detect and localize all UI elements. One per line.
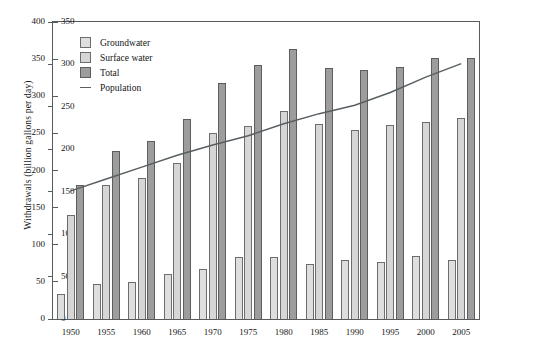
legend-item-total: Total xyxy=(80,65,220,80)
tick-label: 400 xyxy=(32,17,46,26)
x-axis-tick-label: 2005 xyxy=(439,327,483,337)
tick-label: 150 xyxy=(32,203,46,212)
chart-figure: Withdrawals (billion gallons per day) Po… xyxy=(0,0,537,352)
y-axis-left-title: Withdrawals (billion gallons per day) xyxy=(23,45,33,265)
legend-swatch-groundwater-icon xyxy=(80,37,91,48)
legend-label-population: Population xyxy=(100,83,141,93)
tick-label: 50 xyxy=(36,277,45,286)
legend-line-population-icon xyxy=(80,87,91,88)
legend-swatch-surface-water-icon xyxy=(80,52,91,63)
chart-legend: Groundwater Surface water Total Populati… xyxy=(80,35,220,95)
legend-label-total: Total xyxy=(100,68,119,78)
tick-label: 200 xyxy=(32,166,46,175)
tick-label: 100 xyxy=(32,240,46,249)
legend-item-groundwater: Groundwater xyxy=(80,35,220,50)
legend-item-population: Population xyxy=(80,80,220,95)
legend-label-groundwater: Groundwater xyxy=(100,38,150,48)
tick-label: 300 xyxy=(32,91,46,100)
legend-item-surface-water: Surface water xyxy=(80,50,220,65)
tick-label: 350 xyxy=(32,54,46,63)
legend-label-surface-water: Surface water xyxy=(100,53,152,63)
plot-frame: 050100150200250300350400 050100150200250… xyxy=(52,21,480,320)
tick-label: 0 xyxy=(41,314,46,323)
tick-label: 250 xyxy=(32,128,46,137)
legend-swatch-total-icon xyxy=(80,67,91,78)
